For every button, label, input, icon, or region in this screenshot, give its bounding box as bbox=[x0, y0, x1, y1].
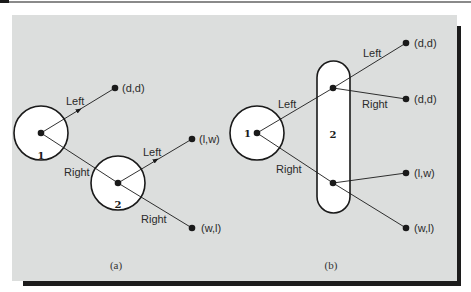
player-label: 1 bbox=[38, 150, 45, 161]
panel-caption: (b) bbox=[325, 259, 338, 272]
player-label: 2 bbox=[330, 129, 337, 140]
payoff-label: (l,w) bbox=[199, 133, 220, 145]
decision-dot-b2-lower bbox=[330, 180, 337, 187]
payoff-label: (d,d) bbox=[414, 93, 437, 105]
terminal-dot bbox=[189, 225, 196, 232]
panel-b: 1 2 Left Right Left Right (d,d) (d,d) (l… bbox=[230, 37, 437, 272]
payoff-label: (w,l) bbox=[201, 222, 221, 234]
edge-label: Right bbox=[276, 163, 302, 175]
edge-label: Right bbox=[64, 166, 90, 178]
payoff-label: (l,w) bbox=[414, 167, 435, 179]
edge-label: Left bbox=[143, 146, 161, 158]
edge-label: Right bbox=[141, 213, 167, 225]
terminal-dot bbox=[112, 85, 119, 92]
edge-label: Left bbox=[66, 95, 84, 107]
edge-label: Left bbox=[278, 98, 296, 110]
panel-a: 1 2 Left Right Left Right (d,d) (l,w) (w… bbox=[14, 82, 221, 272]
terminal-dot bbox=[403, 170, 410, 177]
terminal-dot bbox=[403, 96, 410, 103]
terminal-dot bbox=[189, 136, 196, 143]
payoff-label: (d,d) bbox=[122, 82, 145, 94]
edge-label: Right bbox=[362, 98, 388, 110]
terminal-dot bbox=[403, 225, 410, 232]
decision-dot-a2 bbox=[115, 180, 122, 187]
player-label: 1 bbox=[244, 128, 251, 139]
player-label: 2 bbox=[115, 199, 122, 210]
payoff-label: (d,d) bbox=[414, 37, 437, 49]
edge-label: Left bbox=[363, 47, 381, 59]
decision-dot-b2-upper bbox=[330, 85, 337, 92]
panel-caption: (a) bbox=[110, 259, 123, 272]
terminal-dot bbox=[403, 40, 410, 47]
decision-dot-a1 bbox=[38, 130, 45, 137]
payoff-label: (w,l) bbox=[414, 222, 434, 234]
decision-dot-b1 bbox=[254, 130, 261, 137]
game-tree-figure: 1 2 Left Right Left Right (d,d) (l,w) (w… bbox=[0, 0, 471, 292]
